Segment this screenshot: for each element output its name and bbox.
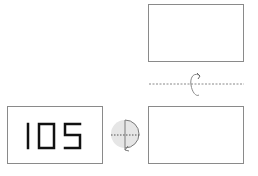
diagram-canvas — [0, 0, 258, 176]
flip-axis-icon — [149, 73, 244, 95]
digits-105 — [28, 124, 80, 148]
rotate-half-circle-icon — [111, 120, 140, 151]
